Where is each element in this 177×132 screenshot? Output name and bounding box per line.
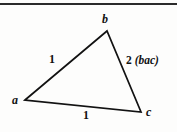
side-length-label-ac: 1	[83, 109, 89, 121]
vertex-label-c: c	[146, 106, 151, 118]
side-length-label-bc: 2 (bac)	[126, 55, 159, 67]
side-bc-value: 2	[126, 54, 132, 66]
side-length-label-ab: 1	[49, 53, 55, 65]
vertex-label-a: a	[12, 94, 18, 106]
side-bc-term: (bac)	[135, 54, 159, 66]
triangle-outline	[25, 31, 141, 112]
vertex-label-b: b	[102, 13, 108, 25]
triangle-figure: b a c 1 1 2 (bac)	[0, 0, 177, 132]
